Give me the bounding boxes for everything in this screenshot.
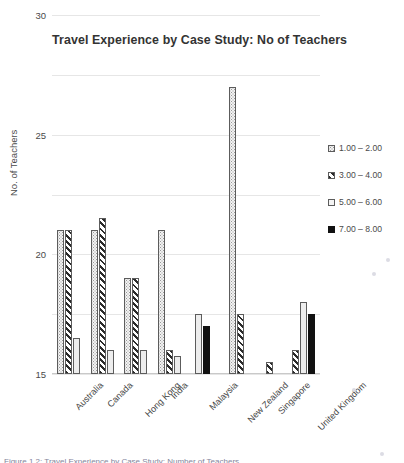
x-axis-label-cell: Australia	[52, 374, 86, 454]
bar	[292, 350, 299, 374]
bar-group	[119, 15, 153, 374]
scan-speck	[380, 452, 384, 456]
bar-group	[52, 15, 86, 374]
legend-swatch-icon	[328, 172, 335, 179]
bar-groups	[52, 15, 320, 374]
bar	[132, 278, 139, 374]
x-axis-label-cell: India	[153, 374, 187, 454]
scan-speck	[352, 388, 356, 392]
legend-swatch-icon	[328, 145, 335, 152]
y-axis-title: No. of Teachers	[8, 130, 19, 196]
x-axis-label-cell: Malaysia	[186, 374, 220, 454]
bar	[91, 230, 98, 374]
bar	[166, 350, 173, 374]
bar	[203, 326, 210, 374]
bar-group	[287, 15, 321, 374]
legend-label: 3.00 – 4.00	[339, 170, 382, 180]
bar	[174, 356, 181, 374]
bar-group	[253, 15, 287, 374]
bar-group	[153, 15, 187, 374]
y-axis-tick-label: 15	[35, 369, 46, 380]
legend-label: 5.00 – 6.00	[339, 197, 382, 207]
bar	[158, 230, 165, 374]
bar-group	[86, 15, 120, 374]
bar	[57, 230, 64, 374]
y-axis-tick-label: 20	[35, 249, 46, 260]
bar	[99, 218, 106, 374]
bar	[140, 350, 147, 374]
legend-item[interactable]: 3.00 – 4.00	[328, 170, 402, 180]
bar	[237, 314, 244, 374]
x-axis-label-cell: Hong Kong	[119, 374, 153, 454]
legend-label: 1.00 – 2.00	[339, 143, 382, 153]
x-axis-label-cell: United Kingdom	[287, 374, 321, 454]
scan-speck	[372, 272, 376, 276]
bar	[308, 314, 315, 374]
y-axis-tick-label: 30	[35, 10, 46, 21]
bar	[65, 230, 72, 374]
plot-area: 051015202530	[52, 15, 320, 374]
bar	[107, 350, 114, 374]
chart-legend: 1.00 – 2.003.00 – 4.005.00 – 6.007.00 – …	[328, 143, 402, 251]
legend-item[interactable]: 5.00 – 6.00	[328, 197, 402, 207]
y-axis-tick-label: 25	[35, 129, 46, 140]
legend-label: 7.00 – 8.00	[339, 224, 382, 234]
legend-item[interactable]: 7.00 – 8.00	[328, 224, 402, 234]
bar	[195, 314, 202, 374]
bar	[300, 302, 307, 374]
x-axis-labels: AustraliaCanadaHong KongIndiaMalaysiaNew…	[52, 374, 320, 454]
bar	[266, 362, 273, 374]
legend-swatch-icon	[328, 199, 335, 206]
bar-group	[220, 15, 254, 374]
bar-chart: Travel Experience by Case Study: No of T…	[0, 0, 404, 463]
bar	[124, 278, 131, 374]
bar	[229, 87, 236, 374]
x-axis-label-cell: New Zealand	[220, 374, 254, 454]
legend-swatch-icon	[328, 226, 335, 233]
bar-group	[186, 15, 220, 374]
x-axis-tick-label: United Kingdom	[316, 380, 368, 432]
scan-speck	[386, 258, 390, 262]
figure-caption: Figure 1.2: Travel Experience by Case St…	[4, 457, 239, 463]
legend-item[interactable]: 1.00 – 2.00	[328, 143, 402, 153]
x-axis-label-cell: Canada	[86, 374, 120, 454]
bar	[73, 338, 80, 374]
x-axis-label-cell: Singapore	[253, 374, 287, 454]
